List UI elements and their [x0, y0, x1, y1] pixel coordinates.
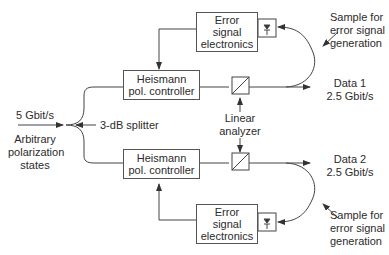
photodiode-lower — [258, 213, 276, 231]
text-line: generation — [330, 235, 385, 248]
text-line: Sample for — [330, 209, 385, 222]
text-line: error signal — [330, 24, 385, 37]
sample-label-lower: Sample for error signal generation — [330, 209, 385, 248]
text-line: error signal — [330, 222, 385, 235]
electronics-label: signal — [213, 218, 242, 230]
text-line: 2.5 Gbit/s — [320, 90, 380, 103]
text-line: generation — [330, 37, 385, 50]
heismann-pol-controller-lower: Heismann pol. controller — [123, 149, 200, 179]
electronics-label: signal — [213, 26, 242, 38]
controller-label: pol. controller — [128, 164, 194, 176]
splitter-label: 3-dB splitter — [100, 119, 159, 132]
text-line: polarization — [8, 146, 62, 159]
error-signal-electronics-upper: Error signal electronics — [196, 12, 258, 52]
controller-label: pol. controller — [128, 85, 194, 97]
electronics-label: Error — [215, 206, 239, 218]
heismann-pol-controller-upper: Heismann pol. controller — [123, 70, 200, 100]
photodiode-upper — [258, 19, 276, 37]
controller-label: Heismann — [137, 152, 187, 164]
text-line: Linear — [215, 112, 265, 125]
text-line: Data 1 — [320, 77, 380, 90]
text-line: Data 2 — [320, 153, 380, 166]
text-line: analyzer — [215, 125, 265, 138]
linear-analyzer-lower — [232, 153, 249, 170]
sample-label-upper: Sample for error signal generation — [330, 11, 385, 50]
electronics-label: electronics — [201, 38, 254, 50]
input-polarization-label: Arbitrary polarization states — [8, 133, 62, 172]
text-line: 2.5 Gbit/s — [320, 166, 380, 179]
electronics-label: electronics — [201, 230, 254, 242]
input-bitrate-label: 5 Gbit/s — [16, 109, 54, 122]
linear-analyzer-label: Linear analyzer — [215, 112, 265, 138]
text-line: states — [8, 159, 62, 172]
error-signal-electronics-lower: Error signal electronics — [196, 204, 258, 244]
output-data-1-label: Data 1 2.5 Gbit/s — [320, 77, 380, 103]
text-line: Sample for — [330, 11, 385, 24]
controller-label: Heismann — [137, 73, 187, 85]
electronics-label: Error — [215, 14, 239, 26]
text-line: Arbitrary — [8, 133, 62, 146]
output-data-2-label: Data 2 2.5 Gbit/s — [320, 153, 380, 179]
linear-analyzer-upper — [232, 77, 249, 94]
